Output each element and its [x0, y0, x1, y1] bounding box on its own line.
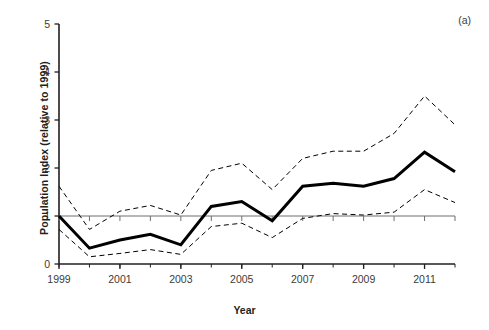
x-axis-label: Year	[0, 304, 489, 316]
x-tick-label: 1999	[47, 273, 71, 285]
x-tick-label: 2001	[108, 273, 132, 285]
y-axis-label: Population Index (relative to 1999)	[38, 28, 50, 268]
series-line	[59, 190, 455, 257]
panel-label: (a)	[458, 14, 471, 26]
x-tick-label: 2007	[291, 273, 315, 285]
line-chart: 0123451999200120032005200720092011	[0, 0, 489, 330]
x-tick-label: 2009	[352, 273, 376, 285]
series-line	[59, 152, 455, 248]
series-line	[59, 96, 455, 229]
x-tick-label: 2003	[169, 273, 193, 285]
figure-panel: 0123451999200120032005200720092011 Popul…	[0, 0, 489, 330]
x-tick-label: 2011	[413, 273, 436, 285]
x-tick-label: 2005	[230, 273, 254, 285]
